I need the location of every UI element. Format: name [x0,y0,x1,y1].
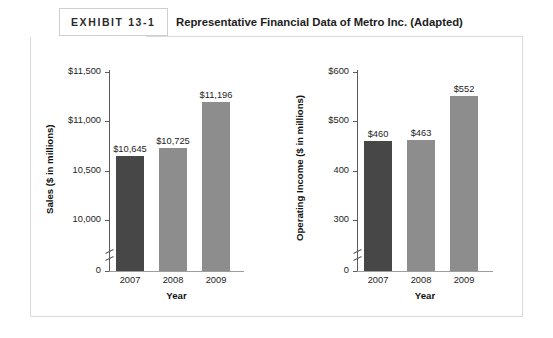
x-axis-category-label: 2009 [442,275,486,285]
y-axis-tick [105,121,109,122]
y-axis-title: Sales ($ in millions) [44,124,55,214]
y-axis-line [357,70,358,271]
y-axis-tick [105,220,109,221]
x-axis-category-label: 2007 [108,275,152,285]
y-axis-tick-label: 0 [47,266,101,275]
y-axis-tick [353,171,357,172]
bar-value-label: $463 [391,128,451,138]
exhibit-figure: EXHIBIT 13-1 Representative Financial Da… [0,0,553,338]
y-axis-tick [105,171,109,172]
x-axis-category-label: 2008 [151,275,195,285]
y-axis-tick [353,121,357,122]
y-axis-title: Operating Income ($ in millions) [294,95,305,241]
x-axis-line [109,271,244,272]
bar-value-label: $10,725 [143,136,203,146]
exhibit-tag: EXHIBIT 13-1 [59,8,168,36]
y-axis-tick-label: $600 [295,67,349,76]
y-axis-tick [353,72,357,73]
bar-2007 [116,156,144,271]
bar-2008 [407,140,435,271]
x-axis-category-label: 2009 [194,275,238,285]
exhibit-title: Representative Financial Data of Metro I… [176,8,463,36]
y-axis-tick [105,72,109,73]
y-axis-tick-label: $11,500 [47,67,101,76]
x-axis-title: Year [109,290,244,301]
x-axis-category-label: 2008 [399,275,443,285]
y-axis-tick [353,220,357,221]
y-axis-tick-label: 0 [295,266,349,275]
chart-sales: $11,500$11,00010,50010,0000$10,6452007$1… [30,36,280,317]
x-axis-title: Year [357,290,493,301]
bar-2009 [450,96,478,271]
y-axis-line [109,70,110,271]
x-axis-line [357,271,493,272]
y-axis-tick [353,271,357,272]
bar-2007 [364,141,392,271]
exhibit-header: EXHIBIT 13-1 Representative Financial Da… [30,8,523,38]
chart-operating-income: $600$5004003000$4602007$4632008$5522009Y… [283,36,526,317]
bar-2008 [159,148,187,271]
y-axis-tick-label: $11,000 [47,116,101,125]
y-axis-tick-label: 10,500 [47,166,101,175]
y-axis-tick [105,271,109,272]
bar-value-label: $11,196 [186,90,246,100]
y-axis-tick-label: 10,000 [47,215,101,224]
x-axis-category-label: 2007 [356,275,400,285]
bar-value-label: $552 [434,84,494,94]
bar-2009 [202,102,230,271]
